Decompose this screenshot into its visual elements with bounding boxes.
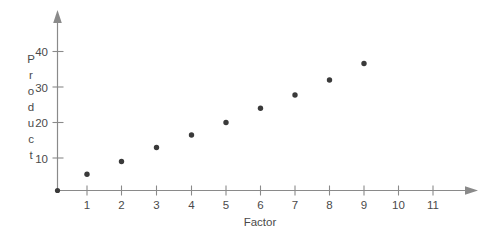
x-tick-label: 6 [257,199,263,211]
y-axis-title-letter: d [28,101,34,113]
y-axis-title-letter: P [27,53,35,65]
x-tick-label: 2 [118,199,124,211]
y-tick-label: 30 [35,82,48,94]
data-point-series [84,61,366,177]
y-axis-title-letter: r [29,69,33,81]
y-tick-label: 20 [35,117,48,129]
data-point [292,92,297,97]
y-axis-tick-labels: 40 30 20 10 [35,46,48,165]
y-axis-title: P r o d u c t [27,53,35,161]
data-point [361,61,366,66]
y-tick-label: 40 [35,46,48,58]
data-point [154,145,159,150]
origin-marker [55,188,60,193]
data-point [189,132,194,137]
y-tick-label: 10 [35,153,48,165]
scatter-plot-figure: 40 30 20 10 1 2 3 4 5 6 7 [0,0,493,234]
x-tick-label: 11 [427,199,439,211]
x-tick-label: 4 [188,199,195,211]
x-axis-arrow-icon [465,186,478,195]
x-axis-title: Factor [244,216,277,228]
y-axis-arrow-icon [53,10,62,23]
y-axis-title-letter: t [29,149,33,161]
x-tick-label: 9 [361,199,367,211]
x-tick-label: 8 [326,199,332,211]
data-point [119,159,124,164]
data-point [223,120,228,125]
x-tick-label: 1 [84,199,90,211]
x-axis-tick-labels: 1 2 3 4 5 6 7 8 9 10 11 [84,199,439,211]
chart-canvas: 40 30 20 10 1 2 3 4 5 6 7 [0,0,493,234]
x-tick-label: 7 [292,199,298,211]
y-axis-title-letter: o [28,85,34,97]
x-tick-label: 3 [153,199,159,211]
data-point [258,106,263,111]
y-axis-title-letter: u [28,117,34,129]
x-tick-label: 10 [392,199,405,211]
data-point [327,77,332,82]
x-tick-label: 5 [223,199,229,211]
y-axis-title-letter: c [28,133,34,145]
data-point [84,172,89,177]
